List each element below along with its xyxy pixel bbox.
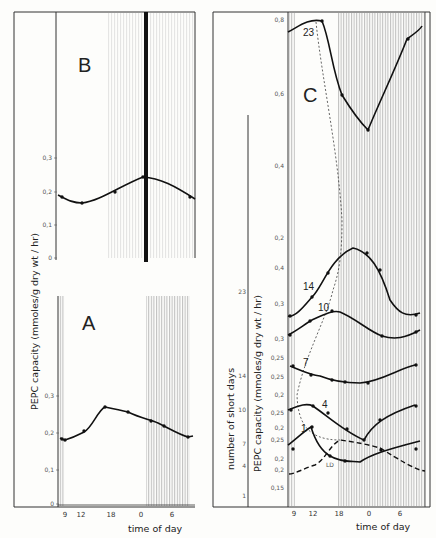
svg-text:0,3: 0,3 [44, 392, 54, 399]
svg-text:6: 6 [170, 511, 175, 519]
curve-label-7: 7 [303, 357, 309, 368]
svg-text:0,2: 0,2 [274, 455, 284, 462]
y-ticks-b: 0 0,1 0,2 0,3 [42, 154, 57, 261]
svg-text:6: 6 [398, 510, 403, 518]
svg-text:0,25: 0,25 [271, 354, 285, 361]
svg-text:0,25: 0,25 [271, 436, 285, 443]
svg-text:0,2: 0,2 [274, 234, 284, 241]
svg-text:0,2: 0,2 [42, 188, 52, 195]
dark-shading [338, 13, 425, 506]
svg-text:9: 9 [292, 510, 296, 518]
svg-text:7: 7 [242, 440, 246, 447]
curve-label-23: 23 [303, 27, 315, 38]
svg-text:4: 4 [242, 462, 246, 469]
svg-text:0,25: 0,25 [271, 409, 285, 416]
svg-text:0: 0 [367, 510, 371, 518]
svg-text:18: 18 [335, 510, 344, 518]
svg-text:0,2: 0,2 [274, 466, 284, 473]
panel-a: 0 0,1 0,2 0,3 A 9 12 18 0 6 time of day [44, 296, 195, 534]
short-days-ticks: 1 4 7 10 14 23 [238, 288, 246, 499]
short-days-label: number of short days [225, 368, 236, 470]
panel-b: 0 0,1 0,2 0,3 B [42, 12, 195, 262]
svg-text:0,6: 0,6 [274, 90, 284, 97]
svg-text:10: 10 [238, 406, 246, 413]
panel-label-a: A [82, 312, 96, 334]
dim-shading [150, 13, 194, 258]
svg-text:1: 1 [242, 492, 246, 499]
svg-text:12: 12 [77, 511, 86, 519]
svg-text:18: 18 [107, 511, 116, 519]
x-axis-c: 9 12 18 0 6 time of day [292, 510, 411, 532]
svg-text:12: 12 [309, 510, 318, 518]
svg-text:9: 9 [63, 511, 67, 519]
svg-text:23: 23 [238, 288, 246, 295]
y-ticks-a: 0 0,1 0,2 0,3 [44, 392, 59, 507]
svg-text:0,3: 0,3 [274, 300, 284, 307]
curve-label-4: 4 [322, 399, 328, 410]
curve-label-14: 14 [303, 281, 315, 292]
svg-text:0,2: 0,2 [274, 391, 284, 398]
svg-text:0,4: 0,4 [274, 264, 284, 271]
curve-label-10: 10 [318, 302, 330, 313]
svg-text:0,3: 0,3 [274, 335, 284, 342]
svg-text:0,8: 0,8 [274, 16, 284, 23]
curve-label-1: 1 [301, 423, 307, 434]
svg-text:0,2: 0,2 [44, 429, 54, 436]
svg-text:0,25: 0,25 [271, 373, 285, 380]
svg-text:0,15: 0,15 [271, 484, 285, 491]
dark-shading [59, 296, 65, 506]
svg-text:0: 0 [50, 500, 54, 507]
dim-shading [108, 13, 146, 258]
dark-shading [146, 296, 190, 506]
svg-text:0,1: 0,1 [44, 466, 54, 473]
svg-text:0,4: 0,4 [274, 162, 284, 169]
dark-shading [289, 13, 295, 506]
svg-text:0,3: 0,3 [42, 154, 52, 161]
svg-text:0: 0 [139, 511, 143, 519]
panel-label-c: C [303, 84, 317, 106]
y-axis-label-c: PEPC capacity (mmoles/g dry wt / hr) [252, 295, 263, 472]
panel-c: 1 4 7 10 14 23 number of short days PEPC… [213, 12, 430, 532]
y-axis-label-left: PEPC capacity (mmoles/g dry wt / hr) [29, 233, 40, 410]
figure: 0 0,1 0,2 0,3 B 0 0,1 0,2 0,3 A [0, 0, 436, 538]
x-axis-a: 9 12 18 0 6 time of day [58, 505, 195, 534]
x-axis-label: time of day [128, 523, 183, 534]
svg-text:0: 0 [48, 254, 52, 261]
svg-text:0,2: 0,2 [274, 424, 284, 431]
x-axis-label: time of day [356, 521, 411, 532]
curve-label-ld: LD [326, 461, 334, 468]
svg-text:0,1: 0,1 [42, 221, 52, 228]
svg-text:14: 14 [238, 372, 246, 379]
y-ticks-c: 0,8 0,6 0,4 0,2 0,4 0,3 0,3 0,25 0,25 0,… [271, 16, 285, 491]
panel-label-b: B [78, 54, 91, 76]
